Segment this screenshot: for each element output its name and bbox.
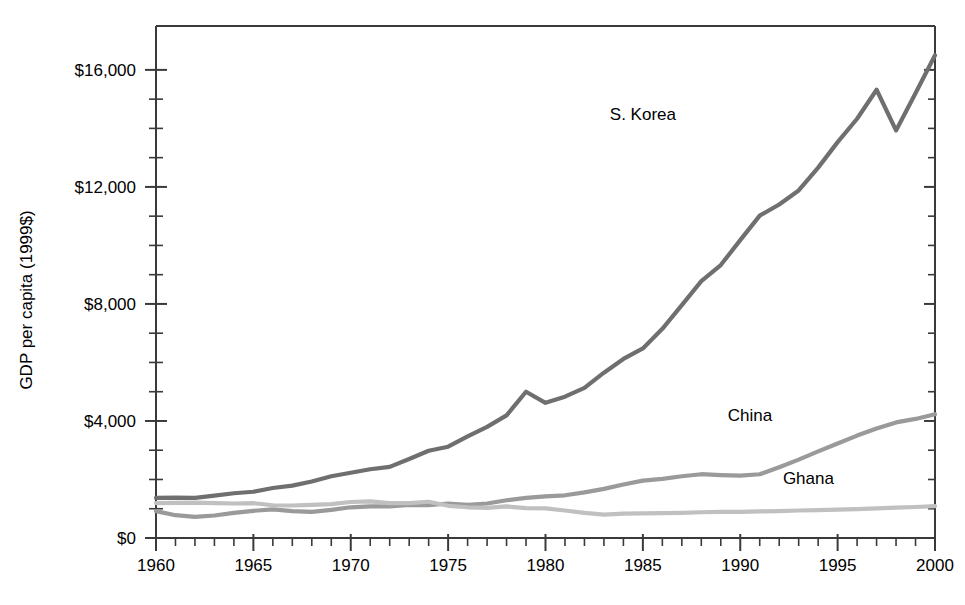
x-axis-tick-label: 1980 [527,556,565,575]
x-axis-tick-label: 1965 [234,556,272,575]
y-axis-tick-label: $4,000 [84,412,136,431]
series-label-china: China [728,406,773,425]
x-axis-tick-label: 1970 [332,556,370,575]
x-axis-tick-labels: 196019651970197519801985199019952000 [137,556,954,575]
x-axis-tick-label: 1960 [137,556,175,575]
x-axis-tick-label: 1985 [624,556,662,575]
y-axis-tick-label: $8,000 [84,295,136,314]
x-axis-tick-label: 1990 [721,556,759,575]
x-axis-tick-label: 2000 [916,556,954,575]
gdp-per-capita-line-chart: GDP per capita (1999$) $0$4,000$8,000$12… [0,0,965,605]
y-axis-tick-label: $12,000 [75,178,136,197]
series-label-s-korea: S. Korea [610,105,677,124]
chart-container: GDP per capita (1999$) $0$4,000$8,000$12… [0,0,965,605]
chart-background [0,0,965,605]
x-axis-tick-label: 1995 [819,556,857,575]
series-label-ghana: Ghana [783,469,835,488]
x-axis-tick-label: 1975 [429,556,467,575]
y-axis-title-text: GDP per capita (1999$) [17,210,36,389]
y-axis-tick-label: $16,000 [75,61,136,80]
y-axis-title: GDP per capita (1999$) [17,210,36,389]
y-axis-tick-label: $0 [117,529,136,548]
